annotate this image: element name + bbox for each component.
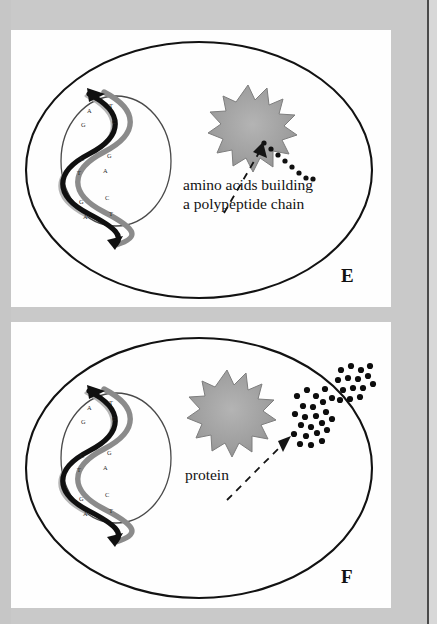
svg-text:C: C (80, 155, 84, 162)
svg-text:A: A (83, 213, 88, 220)
panel-f-caption-line1: protein (185, 466, 229, 485)
figure-panel-f: AT GC CG TA GC AT (11, 322, 391, 608)
page-edge-margin (429, 0, 437, 624)
svg-text:A: A (87, 107, 92, 114)
svg-text:C: C (105, 491, 109, 498)
ribosome-starburst (187, 370, 276, 457)
page-background-top (0, 0, 437, 30)
panel-f-caption: protein (185, 466, 229, 485)
svg-text:T: T (77, 466, 81, 473)
svg-text:C: C (112, 415, 116, 422)
svg-text:A: A (87, 404, 92, 411)
panel-e-artwork: AT GC CG TA GC AT (11, 30, 391, 307)
panel-e-caption-line2: a polypeptide chain (183, 195, 313, 214)
svg-text:G: G (79, 495, 84, 502)
protein-dot-cluster-inner (291, 386, 335, 448)
scanned-figure-page: AT GC CG TA GC AT (0, 0, 437, 624)
panel-e-letter: E (341, 265, 354, 287)
svg-text:C: C (112, 118, 116, 125)
svg-text:T: T (109, 210, 113, 217)
panel-f-letter: F (341, 566, 353, 588)
figure-panel-e: AT GC CG TA GC AT (11, 30, 391, 307)
panel-f-artwork: AT GC CG TA GC AT (11, 322, 391, 608)
panel-e-caption-line1: amino acids building (183, 176, 313, 195)
svg-text:A: A (103, 167, 108, 174)
svg-text:T: T (109, 102, 113, 109)
svg-text:T: T (109, 399, 113, 406)
svg-text:A: A (83, 510, 88, 517)
svg-text:G: G (107, 449, 112, 456)
protein-dot-cluster-outer (335, 363, 376, 403)
svg-text:G: G (107, 152, 112, 159)
svg-text:C: C (80, 452, 84, 459)
svg-text:G: G (81, 418, 86, 425)
svg-text:G: G (81, 121, 86, 128)
svg-text:T: T (77, 169, 81, 176)
panel-e-caption: amino acids building a polypeptide chain (183, 176, 313, 214)
svg-text:G: G (79, 198, 84, 205)
page-background-left (0, 0, 11, 624)
svg-text:A: A (103, 464, 108, 471)
svg-text:C: C (105, 194, 109, 201)
svg-text:T: T (109, 507, 113, 514)
